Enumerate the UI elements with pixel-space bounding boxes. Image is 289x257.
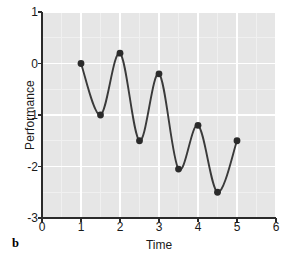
panel-label: b — [12, 236, 19, 251]
y-tick-label: 0 — [10, 58, 38, 70]
y-tick-text: 0 — [10, 58, 38, 70]
y-tick-text: -2 — [10, 161, 38, 173]
x-tick-text: 3 — [147, 221, 171, 233]
x-tick-text: 2 — [108, 221, 132, 233]
y-tick-label: 1 — [10, 6, 38, 18]
x-tick-label: 3 — [147, 221, 171, 235]
x-tick-label: 0 — [30, 221, 54, 235]
y-tick-text: -1 — [10, 109, 38, 121]
x-tick-label: 1 — [69, 221, 93, 235]
x-axis-label: Time — [42, 238, 276, 252]
x-tick-label: 6 — [264, 221, 288, 235]
x-tick-text: 5 — [225, 221, 249, 233]
x-tick-label: 5 — [225, 221, 249, 235]
figure-panel-b: Performance Time b 10-1-2-3 0123456 — [0, 0, 289, 257]
x-tick-label: 2 — [108, 221, 132, 235]
performance-line-chart — [0, 0, 289, 257]
x-tick-text: 1 — [69, 221, 93, 233]
x-tick-text: 4 — [186, 221, 210, 233]
y-tick-label: -2 — [10, 161, 38, 173]
y-tick-label: -1 — [10, 109, 38, 121]
x-tick-label: 4 — [186, 221, 210, 235]
y-tick-text: 1 — [10, 6, 38, 18]
x-tick-text: 0 — [30, 221, 54, 233]
x-tick-text: 6 — [264, 221, 288, 233]
